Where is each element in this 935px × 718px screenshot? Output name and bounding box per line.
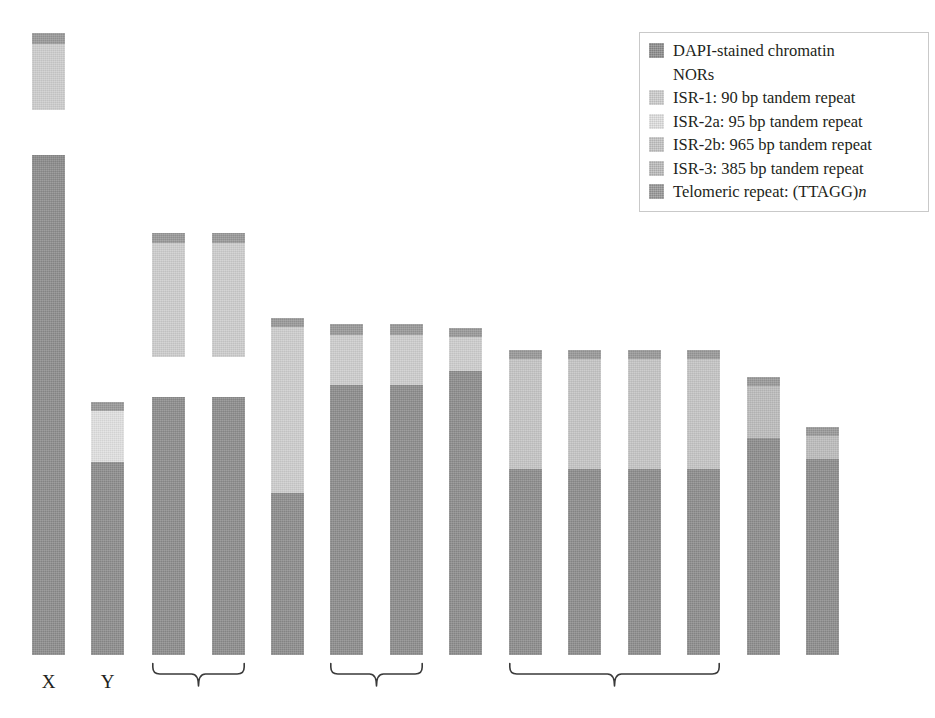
legend-item-label: Telomeric repeat: (TTAGG)n <box>673 181 867 202</box>
bracket-pair-3-4 <box>152 662 245 690</box>
band-telomere <box>509 350 542 359</box>
chromosome-label-x: X <box>32 672 65 691</box>
chromosome-14-body <box>806 427 839 655</box>
band-isr2b <box>568 359 601 469</box>
chromosome-12-body <box>687 350 720 655</box>
band-dapi <box>747 438 780 655</box>
legend-item: DAPI-stained chromatin <box>649 40 920 64</box>
legend-item: NORs <box>649 64 920 88</box>
chromosome-3-short-arm <box>152 233 185 357</box>
legend-item-label: NORs <box>673 64 714 85</box>
chromosome-4-body <box>212 397 245 655</box>
idiogram-figure: XY DAPI-stained chromatinNORsISR-1: 90 b… <box>0 0 935 718</box>
band-dapi <box>449 371 482 655</box>
band-telomere <box>152 233 185 243</box>
chromosome-9-body <box>509 350 542 655</box>
chromosome-7-body <box>390 324 423 655</box>
legend-item: ISR-3: 385 bp tandem repeat <box>649 158 920 182</box>
band-isr1 <box>390 335 423 385</box>
band-dapi <box>390 385 423 655</box>
chromosome-label-y: Y <box>91 672 124 691</box>
legend-rows: DAPI-stained chromatinNORsISR-1: 90 bp t… <box>649 40 920 205</box>
band-dapi <box>91 462 124 655</box>
chromosome-8-body <box>449 328 482 655</box>
legend-item: ISR-1: 90 bp tandem repeat <box>649 87 920 111</box>
band-telomere <box>32 155 65 165</box>
band-dapi <box>806 459 839 655</box>
chromosome-Y-body <box>91 402 124 655</box>
band-telomere <box>32 33 65 44</box>
band-isr1 <box>271 327 304 493</box>
band-dapi <box>212 397 245 655</box>
chromosome-4-short-arm <box>212 233 245 357</box>
band-dapi <box>32 165 65 655</box>
legend-box: DAPI-stained chromatinNORsISR-1: 90 bp t… <box>639 32 929 212</box>
band-isr2b <box>687 359 720 469</box>
band-telomere <box>747 377 780 386</box>
chromosome-5-body <box>271 318 304 655</box>
band-isr3 <box>747 386 780 438</box>
band-telomere <box>628 350 661 359</box>
chromosome-3-body <box>152 397 185 655</box>
bracket-group-9-12 <box>509 662 720 690</box>
legend-item: ISR-2b: 965 bp tandem repeat <box>649 134 920 158</box>
band-dapi <box>687 469 720 655</box>
chromosome-6-body <box>330 324 363 655</box>
band-dapi <box>152 397 185 655</box>
band-telomere <box>687 350 720 359</box>
legend-item-label: ISR-2b: 965 bp tandem repeat <box>673 134 872 155</box>
band-telomere <box>449 328 482 337</box>
legend-item-label: ISR-1: 90 bp tandem repeat <box>673 87 855 108</box>
band-telomere <box>91 402 124 411</box>
legend-swatch-dapi <box>649 43 664 58</box>
band-isr1 <box>152 243 185 357</box>
chromosome-13-body <box>747 377 780 655</box>
legend-swatch-isr3 <box>649 161 664 176</box>
band-isr2b <box>628 359 661 469</box>
chromosome-11-body <box>628 350 661 655</box>
band-telomere <box>390 324 423 335</box>
band-telomere <box>330 324 363 335</box>
legend-swatch-isr2b <box>649 137 664 152</box>
legend-swatch-isr1 <box>649 90 664 105</box>
band-isr2b <box>509 359 542 469</box>
band-telomere <box>806 427 839 436</box>
legend-item-label: DAPI-stained chromatin <box>673 40 835 61</box>
band-telomere <box>212 233 245 243</box>
band-isr2a <box>91 411 124 462</box>
bracket-glyph <box>330 662 423 690</box>
bracket-pair-6-7 <box>330 662 423 690</box>
chromosome-10-body <box>568 350 601 655</box>
band-dapi <box>509 469 542 655</box>
band-isr1 <box>449 337 482 371</box>
chromosome-X-body <box>32 155 65 655</box>
band-dapi <box>628 469 661 655</box>
bracket-glyph <box>509 662 720 690</box>
legend-swatch-telomere <box>649 184 664 199</box>
band-telomere <box>568 350 601 359</box>
legend-item: Telomeric repeat: (TTAGG)n <box>649 181 920 205</box>
band-telomere <box>271 318 304 327</box>
band-dapi <box>271 493 304 655</box>
legend-item: ISR-2a: 95 bp tandem repeat <box>649 111 920 135</box>
legend-italic-n: n <box>858 182 866 201</box>
band-isr1 <box>32 44 65 110</box>
legend-item-label: ISR-3: 385 bp tandem repeat <box>673 158 864 179</box>
band-isr1 <box>212 243 245 357</box>
band-dapi <box>330 385 363 655</box>
legend-swatch-isr2a <box>649 114 664 129</box>
legend-item-label: ISR-2a: 95 bp tandem repeat <box>673 111 863 132</box>
chromosome-X-short-arm <box>32 33 65 110</box>
band-dapi <box>568 469 601 655</box>
band-isr1 <box>330 335 363 385</box>
bracket-glyph <box>152 662 245 690</box>
legend-swatch-nor <box>649 67 664 82</box>
band-isr3 <box>806 436 839 459</box>
